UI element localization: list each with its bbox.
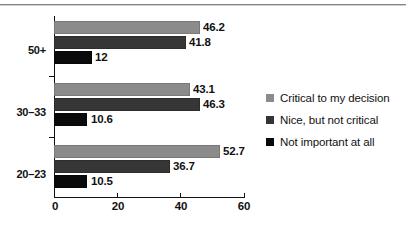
legend-swatch-icon-not-important — [266, 138, 274, 146]
x-axis-label-40: 40 — [175, 200, 187, 212]
bar-20-23-not-important — [54, 175, 87, 188]
legend-label-critical: Critical to my decision — [280, 92, 390, 104]
bar-20-23-nice — [54, 160, 170, 173]
x-axis-line — [54, 197, 245, 198]
y-axis-category-labels: 50+ 30–33 20–23 — [0, 16, 46, 198]
legend-item-not-important: Not important at all — [266, 136, 402, 148]
legend-swatch-icon-critical — [266, 94, 274, 102]
bar-chart: 0 20 40 60 50+ 30–33 20–23 46.2 41.8 12 … — [0, 0, 406, 231]
legend-item-critical: Critical to my decision — [266, 92, 402, 104]
bar-20-23-critical — [54, 145, 220, 158]
bar-50plus-nice — [54, 36, 186, 49]
x-axis-label-0: 0 — [52, 200, 58, 212]
legend-swatch-icon-nice — [266, 116, 274, 124]
bar-value-20-23-nice: 36.7 — [173, 160, 195, 173]
plot-area: 46.2 41.8 12 43.1 46.3 10.6 52.7 36.7 10… — [54, 16, 244, 197]
legend-label-nice: Nice, but not critical — [280, 114, 378, 126]
chart-legend: Critical to my decision Nice, but not cr… — [266, 92, 402, 158]
bar-30-33-nice — [54, 98, 200, 111]
bar-value-30-33-not-important: 10.6 — [91, 113, 113, 126]
y-axis-category-label-20-23: 20–23 — [16, 168, 46, 180]
x-axis-label-20: 20 — [112, 200, 124, 212]
bar-50plus-critical — [54, 21, 200, 34]
bar-value-50plus-nice: 41.8 — [189, 36, 211, 49]
legend-label-not-important: Not important at all — [280, 136, 375, 148]
bar-30-33-not-important — [54, 113, 87, 126]
bar-value-20-23-critical: 52.7 — [223, 145, 245, 158]
bar-value-20-23-not-important: 10.5 — [91, 175, 113, 188]
bar-value-50plus-critical: 46.2 — [203, 21, 225, 34]
bar-50plus-not-important — [54, 51, 92, 64]
y-axis-category-label-30-33: 30–33 — [16, 106, 46, 118]
x-axis-label-60: 60 — [238, 200, 250, 212]
bar-value-30-33-critical: 43.1 — [193, 83, 215, 96]
bar-value-30-33-nice: 46.3 — [203, 98, 225, 111]
top-scan-rule-shadow — [0, 5, 406, 6]
bar-30-33-critical — [54, 83, 190, 96]
bar-value-50plus-not-important: 12 — [95, 51, 107, 64]
legend-item-nice: Nice, but not critical — [266, 114, 402, 126]
y-axis-category-label-50plus: 50+ — [28, 44, 46, 56]
